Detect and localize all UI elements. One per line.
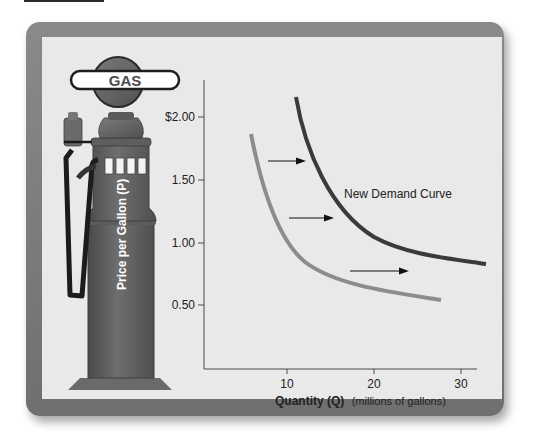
arrow-right-icon (296, 158, 306, 165)
gas-sign-text: GAS (109, 72, 142, 89)
arrow-right-icon (399, 268, 409, 275)
y-tick-label: $2.00 (165, 110, 195, 124)
x-tick-label: 20 (367, 377, 381, 391)
y-tick-label: 1.50 (172, 173, 196, 187)
y-tick-label: 1.00 (172, 236, 196, 250)
chart-axes (198, 80, 477, 374)
arrow-right-icon (324, 215, 334, 222)
new-demand-curve (296, 97, 486, 264)
x-tick-label: 10 (280, 377, 294, 391)
new-demand-curve-label: New Demand Curve (344, 187, 452, 201)
tick-labels: $2.00 1.50 1.00 0.50 10 20 30 (165, 110, 468, 391)
y-axis-label: Price per Gallon (P) (115, 179, 129, 290)
x-tick-label: 30 (454, 377, 468, 391)
x-axis-title: Quantity (Q) (275, 394, 344, 408)
x-axis-units: (millions of gallons) (352, 395, 446, 407)
original-demand-curve (251, 134, 441, 300)
x-axis-label: Quantity (Q) (millions of gallons) (275, 394, 446, 408)
y-tick-label: 0.50 (172, 298, 196, 312)
shift-arrows (268, 158, 409, 275)
demand-shift-diagram: GAS $2.00 1.50 1.00 0.50 10 20 30 Quanti… (0, 0, 539, 448)
